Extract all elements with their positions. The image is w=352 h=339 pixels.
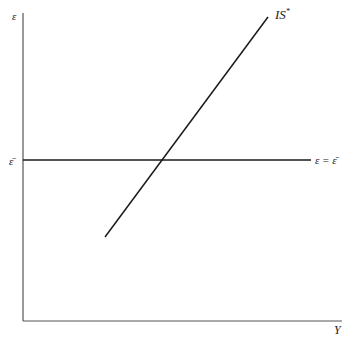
y-axis-label: ε (12, 10, 17, 22)
is-star-diagram: ε Y ε̄ IS* ε = ε̄ (0, 0, 352, 339)
y-tick-label: ε̄ (9, 155, 16, 167)
is-star-curve (105, 17, 268, 237)
is-star-label: IS* (274, 7, 290, 22)
exchange-rate-line-label: ε = ε̄ (315, 154, 340, 166)
svg-text:IS*: IS* (274, 7, 290, 22)
svg-text:ε̄: ε̄ (9, 155, 16, 167)
x-axis-label: Y (334, 323, 342, 337)
